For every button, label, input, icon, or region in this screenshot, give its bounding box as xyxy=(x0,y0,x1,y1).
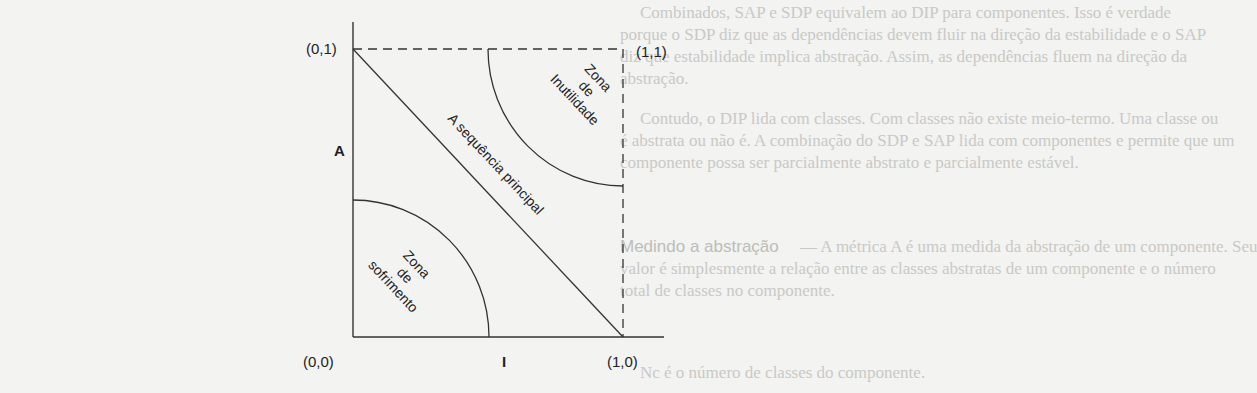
corner-label-top-right: (1,1) xyxy=(636,43,667,60)
zone-of-pain-label: Zona de sofrimento xyxy=(365,235,445,316)
zone-of-uselessness-label: Zona de Inutilidade xyxy=(547,49,626,129)
corner-label-bottom-left: (0,0) xyxy=(303,353,334,370)
x-axis-label: I xyxy=(502,353,506,370)
corner-label-top-left: (0,1) xyxy=(306,40,337,57)
y-axis-label: A xyxy=(334,142,345,159)
corner-label-bottom-right: (1,0) xyxy=(607,353,638,370)
